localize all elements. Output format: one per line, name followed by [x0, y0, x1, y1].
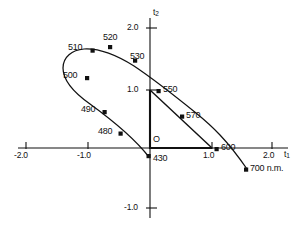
data-point-480 — [119, 132, 123, 136]
x-tick-label-2.0: 2.0 — [263, 151, 274, 160]
x-tick-label-1.0: 1.0 — [203, 151, 214, 160]
point-label-520: 520 — [103, 33, 117, 42]
point-label-530: 530 — [130, 52, 144, 61]
data-point-520 — [108, 45, 112, 49]
point-label-480: 480 — [98, 127, 112, 136]
y-axis-label: t2 — [153, 8, 159, 18]
data-point-700 — [244, 168, 248, 172]
data-point-500 — [85, 76, 89, 80]
point-label-600: 600 — [221, 143, 235, 152]
point-label-490: 490 — [81, 105, 95, 114]
point-label-510: 510 — [68, 43, 82, 52]
data-point-570 — [180, 115, 184, 119]
y-tick-label--1.0: -1.0 — [124, 203, 138, 212]
y-tick-label-2.0: 2.0 — [127, 23, 138, 32]
data-point-490 — [103, 110, 107, 114]
chromaticity-locus-figure: t1 t2 O -2.0 -1.0 1.0 2.0 2.0 1.0 -1.0 4… — [0, 0, 302, 235]
x-axis-label: t1 — [284, 150, 290, 160]
plot-canvas — [0, 0, 302, 235]
data-point-600 — [215, 147, 219, 151]
x-tick-label--1.0: -1.0 — [77, 151, 91, 160]
x-tick-label--2.0: -2.0 — [14, 151, 28, 160]
data-point-550 — [157, 89, 161, 93]
point-label-550: 550 — [163, 85, 177, 94]
point-label-500: 500 — [63, 71, 77, 80]
y-tick-label-1.0: 1.0 — [127, 85, 138, 94]
origin-label: O — [153, 135, 160, 144]
point-label-700: 700 n.m. — [250, 164, 283, 173]
data-point-510 — [91, 49, 95, 53]
data-point-430 — [147, 154, 151, 158]
point-label-430: 430 — [153, 154, 167, 163]
point-label-570: 570 — [186, 111, 200, 120]
